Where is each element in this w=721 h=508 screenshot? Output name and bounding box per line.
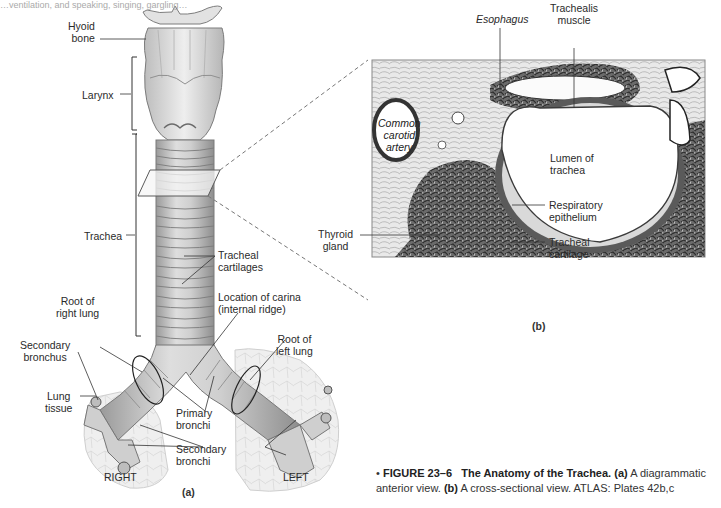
label-right: RIGHT: [104, 471, 137, 483]
label-root-right-lung: Root of right lung: [56, 295, 99, 319]
label-hyoid-bone: Hyoid bone: [68, 20, 95, 44]
label-secondary-bronchus: Secondary bronchus: [20, 339, 70, 363]
cropped-header-text: …ventilation, and speaking, singing, gar…: [0, 0, 188, 10]
histology-section: [372, 60, 705, 257]
caption-figure-number: FIGURE 23–6: [383, 467, 452, 479]
label-common-carotid-artery: Common carotid artery: [378, 117, 421, 153]
caption-atlas: ATLAS: Plates 42b,c: [573, 482, 674, 494]
label-root-left-lung: Root of left lung: [276, 333, 313, 357]
label-primary-bronchi: Primary bronchi: [176, 407, 212, 431]
label-carina: Location of carina (internal ridge): [218, 291, 301, 315]
caption-title: The Anatomy of the Trachea.: [461, 467, 611, 479]
panel-a-sublabel: (a): [182, 486, 195, 498]
figure-caption: • FIGURE 23–6 The Anatomy of the Trachea…: [376, 466, 706, 496]
label-trachealis-muscle: Trachealis muscle: [550, 2, 598, 26]
label-tracheal-cartilages: Tracheal cartilages: [218, 249, 263, 273]
label-thyroid-gland: Thyroid gland: [318, 228, 353, 252]
caption-bullet: •: [376, 467, 380, 479]
caption-line2-start: anterior view.: [376, 482, 441, 494]
panel-b-sublabel: (b): [532, 320, 545, 332]
label-secondary-bronchi: Secondary bronchi: [176, 443, 226, 467]
section-plane: [138, 170, 220, 196]
label-larynx: Larynx: [82, 89, 114, 101]
label-lumen-of-trachea: Lumen of trachea: [550, 152, 594, 176]
label-trachea: Trachea: [84, 230, 122, 242]
caption-part-b-tag: (b): [444, 482, 458, 494]
label-left: LEFT: [283, 471, 309, 483]
label-lung-tissue: Lung tissue: [45, 390, 72, 414]
trachea-illustration: [0, 0, 721, 508]
caption-part-a-tag: (a): [614, 467, 627, 479]
label-esophagus: Esophagus: [476, 13, 529, 25]
larynx-shape: [144, 28, 224, 140]
label-respiratory-epithelium: Respiratory epithelium: [549, 199, 603, 223]
label-tracheal-cartilage: Tracheal cartilage: [549, 236, 589, 260]
caption-part-b-text: A cross-sectional view.: [460, 482, 571, 494]
caption-part-a-text: A diagrammatic: [630, 467, 706, 479]
